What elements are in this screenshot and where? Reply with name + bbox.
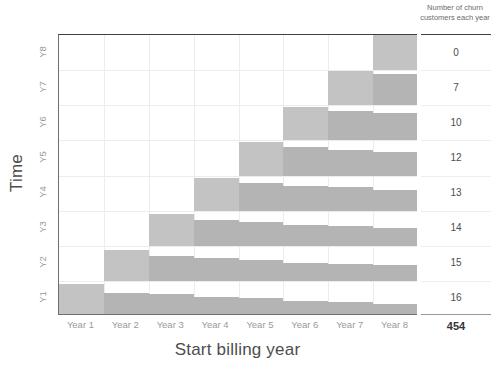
bar	[373, 265, 417, 281]
churn-value: 13	[421, 187, 491, 199]
plot-area	[58, 34, 417, 315]
bar	[239, 142, 284, 175]
y-axis-tick-y5: Y5	[30, 151, 56, 163]
bar	[283, 263, 328, 281]
bar	[283, 225, 328, 246]
bar	[239, 260, 284, 281]
bar-cell	[283, 176, 328, 211]
churn-value: 16	[421, 292, 491, 304]
bar	[194, 178, 239, 210]
x-axis-tick-year-1: Year 1	[58, 318, 103, 332]
x-axis-tick-year-7: Year 7	[327, 318, 372, 332]
bar-cell	[373, 176, 417, 211]
bar	[283, 107, 328, 141]
bar	[328, 264, 373, 281]
churn-total-value: 454	[421, 320, 491, 332]
bar	[373, 74, 417, 105]
bar-cell	[373, 70, 417, 105]
churn-row-separator	[421, 70, 491, 71]
bar	[373, 228, 417, 246]
churn-row-separator	[421, 140, 491, 141]
y-axis-tick-y1: Y1	[30, 291, 56, 303]
bar	[328, 226, 373, 246]
x-axis-tick-year-8: Year 8	[372, 318, 417, 332]
bar-cell	[373, 105, 417, 140]
bar	[328, 71, 373, 105]
bar	[194, 297, 239, 315]
bar-cell	[328, 105, 373, 140]
churn-column-header: Number of churn customers each year	[418, 3, 492, 22]
bar-cell	[239, 140, 284, 175]
bar	[104, 250, 149, 281]
bar-cell	[373, 140, 417, 175]
bar-band-y2	[59, 246, 417, 281]
bar-cell	[149, 211, 194, 246]
bar	[283, 301, 328, 315]
bar	[373, 190, 417, 211]
y-axis-tick-y3: Y3	[30, 221, 56, 233]
y-axis-tick-y7: Y7	[30, 81, 56, 93]
bar	[239, 298, 284, 315]
bar-cell	[283, 281, 328, 315]
bar-cell	[283, 211, 328, 246]
bar-cell	[283, 246, 328, 281]
churn-value: 14	[421, 222, 491, 234]
x-axis-tick-year-3: Year 3	[148, 318, 193, 332]
bar-cell	[239, 281, 284, 315]
bar	[194, 258, 239, 281]
bar	[283, 186, 328, 211]
y-axis-tick-y6: Y6	[30, 116, 56, 128]
bar-cell	[194, 281, 239, 315]
bar-band-y5	[59, 140, 417, 175]
bar-cell	[194, 246, 239, 281]
bar-band-y1	[59, 281, 417, 315]
bar-band-y3	[59, 211, 417, 246]
bar-band-y4	[59, 176, 417, 211]
bar-cell	[239, 246, 284, 281]
bar-cell	[149, 281, 194, 315]
bar-band-y6	[59, 105, 417, 140]
churn-value: 15	[421, 257, 491, 269]
bar-cell	[104, 281, 149, 315]
bar	[59, 284, 104, 315]
bar-cell	[373, 281, 417, 315]
x-axis-tick-year-5: Year 5	[238, 318, 283, 332]
x-axis-tick-year-4: Year 4	[193, 318, 238, 332]
bar-cell	[239, 176, 284, 211]
churn-column: 07101213141516	[421, 34, 491, 315]
y-axis-tick-y2: Y2	[30, 256, 56, 268]
bar-cell	[149, 246, 194, 281]
bar-cell	[373, 35, 417, 70]
bar-cell	[283, 105, 328, 140]
bar-band-y7	[59, 70, 417, 105]
bar-cell	[59, 281, 104, 315]
x-axis-tick-year-2: Year 2	[103, 318, 148, 332]
bar-cell	[328, 211, 373, 246]
bar	[328, 187, 373, 210]
bar	[328, 111, 373, 141]
x-axis-tick-year-6: Year 6	[282, 318, 327, 332]
churn-value: 7	[421, 82, 491, 94]
bar-band-y8	[59, 35, 417, 70]
x-axis-title: Start billing year	[58, 340, 417, 360]
bar	[239, 222, 284, 246]
churn-row-separator	[421, 105, 491, 106]
bar	[149, 256, 194, 281]
bar-cell	[104, 246, 149, 281]
churn-value: 0	[421, 47, 491, 59]
churn-row-separator	[421, 211, 491, 212]
x-axis-tick-labels: Year 1Year 2Year 3Year 4Year 5Year 6Year…	[58, 318, 417, 334]
bar-cell	[328, 140, 373, 175]
chart-figure: Time Y1Y2Y3Y4Y5Y6Y7Y8 Year 1Year 2Year 3…	[0, 0, 494, 382]
bar-cell	[194, 176, 239, 211]
y-axis-title: Time	[7, 133, 27, 213]
bar-cell	[328, 246, 373, 281]
bar-cell	[328, 281, 373, 315]
bar	[373, 113, 417, 140]
bar	[328, 302, 373, 315]
bar	[283, 147, 328, 175]
bar	[373, 304, 417, 315]
churn-value: 10	[421, 117, 491, 129]
bar	[194, 220, 239, 246]
bar-cell	[373, 211, 417, 246]
